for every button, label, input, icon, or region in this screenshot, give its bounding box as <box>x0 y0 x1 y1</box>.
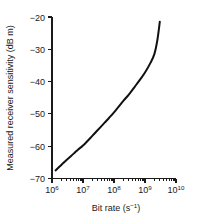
receiver-sensitivity-chart: −20 −30 −40 −50 −60 −70 106 107 108 109 … <box>0 0 210 221</box>
y-tick-label: −30 <box>30 45 45 55</box>
y-tick-label: −40 <box>30 77 45 87</box>
y-tick-label: −70 <box>30 174 45 184</box>
x-axis-title: Bit rate (s−1) <box>92 202 141 214</box>
y-tick-label: −60 <box>30 142 45 152</box>
x-tick-label: 107 <box>76 184 90 196</box>
chart-figure: −20 −30 −40 −50 −60 −70 106 107 108 109 … <box>0 0 210 221</box>
x-tick-label: 109 <box>138 184 152 196</box>
y-axis-tick-labels: −20 −30 −40 −50 −60 −70 <box>30 13 45 185</box>
y-tick-label: −50 <box>30 109 45 119</box>
x-tick-label: 108 <box>107 184 121 196</box>
y-axis-title: Measured receiver sensitivity (dB m) <box>5 25 15 171</box>
y-axis-ticks <box>48 17 52 179</box>
x-axis-tick-labels: 106 107 108 109 1010 <box>45 184 185 196</box>
x-tick-label: 106 <box>45 184 59 196</box>
sensitivity-curve <box>56 22 160 171</box>
x-tick-label: 1010 <box>168 184 185 196</box>
y-tick-label: −20 <box>30 13 45 23</box>
